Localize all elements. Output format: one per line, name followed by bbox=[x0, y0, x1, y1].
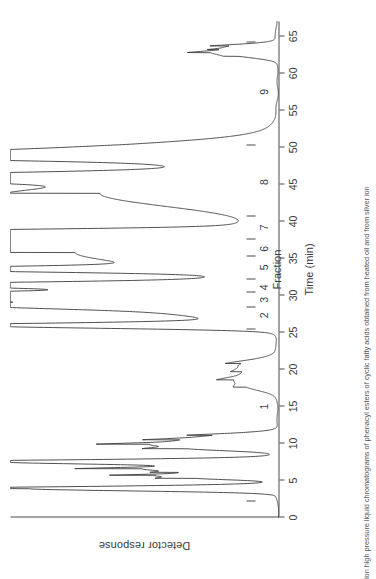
y-axis-label: Detector response bbox=[10, 533, 278, 551]
fraction-divider bbox=[246, 307, 255, 308]
x-axis-tick bbox=[279, 516, 284, 517]
x-axis-tick-label: 50 bbox=[286, 132, 298, 162]
fraction-label-1: 1 bbox=[257, 393, 269, 419]
x-axis-tick bbox=[279, 405, 284, 406]
x-axis-tick bbox=[279, 220, 284, 221]
x-axis-tick bbox=[279, 109, 284, 110]
x-axis-tick bbox=[279, 479, 284, 480]
x-axis-tick-label: 25 bbox=[286, 317, 298, 347]
x-axis-tick-label: 30 bbox=[286, 280, 298, 310]
x-axis-tick bbox=[279, 442, 284, 443]
figure-caption-text: ion high pressure liquid chromatograms o… bbox=[358, 0, 376, 579]
plot-frame bbox=[10, 21, 278, 517]
fraction-divider bbox=[246, 238, 255, 239]
x-axis-tick-label: 55 bbox=[286, 95, 298, 125]
fraction-label-9: 9 bbox=[257, 78, 269, 104]
x-axis-tick bbox=[279, 183, 284, 184]
x-axis-tick-label: 35 bbox=[286, 243, 298, 273]
figure-caption: ion high pressure liquid chromatograms o… bbox=[358, 0, 376, 579]
x-axis-tick-label: 40 bbox=[286, 206, 298, 236]
fraction-divider bbox=[246, 291, 255, 292]
chromatogram-trace bbox=[10, 21, 278, 517]
x-axis-tick-label: 15 bbox=[286, 391, 298, 421]
fraction-divider bbox=[246, 500, 255, 501]
x-axis-tick-label: 20 bbox=[286, 354, 298, 384]
x-axis-tick bbox=[279, 257, 284, 258]
x-axis-tick bbox=[279, 146, 284, 147]
fraction-divider bbox=[246, 144, 255, 145]
x-axis-tick-label: 10 bbox=[286, 428, 298, 458]
fraction-label-7: 7 bbox=[257, 214, 269, 240]
fraction-label-8: 8 bbox=[257, 169, 269, 195]
x-axis-tick bbox=[279, 35, 284, 36]
rotated-figure-stage: Detector response 123456789 Fraction 051… bbox=[0, 0, 376, 579]
fraction-divider bbox=[246, 255, 255, 256]
x-axis-tick bbox=[279, 331, 284, 332]
x-axis-tick-label: 65 bbox=[286, 21, 298, 51]
x-axis-tick-label: 5 bbox=[286, 465, 298, 495]
chromatogram-chart: Detector response 123456789 Fraction 051… bbox=[0, 0, 376, 579]
x-axis-tick bbox=[279, 72, 284, 73]
x-axis-tick-label: 60 bbox=[286, 58, 298, 88]
x-axis-tick bbox=[279, 368, 284, 369]
fraction-divider bbox=[246, 41, 255, 42]
x-axis-title: Time (min) bbox=[302, 21, 314, 517]
figure-root: Detector response 123456789 Fraction 051… bbox=[0, 0, 376, 579]
trace-path bbox=[10, 21, 278, 517]
fraction-divider bbox=[246, 328, 255, 329]
x-axis-tick-label: 45 bbox=[286, 169, 298, 199]
fraction-divider bbox=[246, 278, 255, 279]
fraction-divider bbox=[246, 215, 255, 216]
x-axis-tick bbox=[279, 294, 284, 295]
x-axis-tick-label: 0 bbox=[286, 502, 298, 532]
